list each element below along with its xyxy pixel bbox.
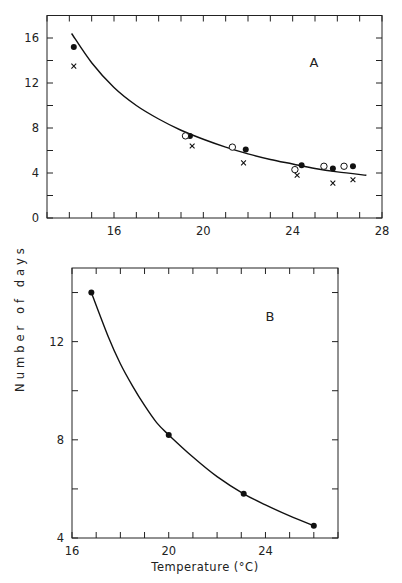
y-tick-label: 12 bbox=[49, 335, 64, 349]
filled-circle-point bbox=[311, 523, 317, 529]
y-tick-label: 4 bbox=[32, 166, 39, 180]
filled-circle-point bbox=[243, 146, 249, 152]
filled-circle-point bbox=[299, 162, 305, 168]
y-axis-title: Number of days bbox=[13, 244, 27, 392]
cross-point bbox=[241, 160, 246, 165]
cross-point bbox=[295, 173, 300, 178]
y-tick-label: 4 bbox=[57, 531, 64, 545]
figure: 162024280481216A 1620244812B Number of d… bbox=[0, 0, 402, 583]
x-tick-label: 16 bbox=[107, 224, 122, 238]
x-axis-title: Temperature (°C) bbox=[150, 560, 258, 574]
filled-circle-point bbox=[241, 491, 247, 497]
cross-point bbox=[190, 144, 195, 149]
fitted-curve bbox=[72, 34, 367, 176]
filled-circle-point bbox=[166, 432, 172, 438]
cross-point bbox=[71, 64, 76, 69]
filled-circle-point bbox=[88, 290, 94, 296]
panel-b: 1620244812B bbox=[49, 268, 338, 558]
filled-circle-point bbox=[71, 44, 77, 50]
plot-frame bbox=[47, 16, 382, 219]
cross-point bbox=[351, 177, 356, 182]
y-tick-label: 16 bbox=[24, 31, 39, 45]
y-tick-label: 12 bbox=[24, 76, 39, 90]
cross-point bbox=[330, 181, 335, 186]
x-tick-label: 16 bbox=[65, 544, 80, 558]
y-tick-label: 8 bbox=[32, 121, 39, 135]
x-tick-label: 20 bbox=[161, 544, 176, 558]
filled-circle-point bbox=[350, 163, 356, 169]
x-tick-label: 20 bbox=[196, 224, 211, 238]
open-circle-point bbox=[182, 133, 188, 139]
x-tick-label: 24 bbox=[285, 224, 300, 238]
panel-label: B bbox=[266, 309, 275, 324]
y-tick-label: 0 bbox=[32, 211, 39, 225]
x-tick-label: 28 bbox=[375, 224, 390, 238]
open-circle-point bbox=[292, 166, 298, 172]
panel-a: 162024280481216A bbox=[24, 16, 389, 239]
fitted-curve bbox=[91, 293, 313, 526]
open-circle-point bbox=[229, 144, 235, 150]
filled-circle-point bbox=[330, 166, 336, 172]
x-tick-label: 24 bbox=[258, 544, 273, 558]
open-circle-point bbox=[341, 163, 347, 169]
open-circle-point bbox=[321, 163, 327, 169]
panel-label: A bbox=[310, 55, 319, 70]
plot-frame bbox=[72, 268, 338, 538]
y-tick-label: 8 bbox=[57, 433, 64, 447]
